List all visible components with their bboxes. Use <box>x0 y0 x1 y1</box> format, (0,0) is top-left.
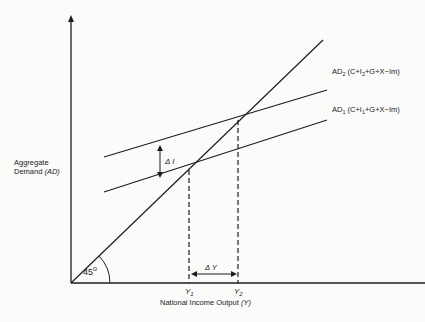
delta-i-arrow-top-icon <box>157 145 163 151</box>
diagram-canvas: 45o AD2(C+I2+G+X−Im) AD1(C+I1+G+X−Im) Δ … <box>0 0 425 322</box>
angle-label: 45o <box>83 265 97 277</box>
ad1-line <box>104 120 327 192</box>
y-axis-label-line2: Demand (AD) <box>14 167 60 176</box>
y1-label: Y1 <box>185 287 194 297</box>
delta-y-arrow-left-icon <box>191 271 197 277</box>
angle-arc <box>99 256 110 283</box>
delta-i-label: Δ I <box>164 157 175 166</box>
y2-label: Y2 <box>234 287 243 297</box>
y-axis-label-line1: Aggregate <box>14 158 49 167</box>
x-axis-label: National Income Output (Y) <box>160 298 251 307</box>
ad2-label: AD2(C+I2+G+X−Im) <box>332 67 400 77</box>
y-axis-arrow-icon <box>68 15 74 22</box>
ad1-label: AD1(C+I1+G+X−Im) <box>332 105 400 115</box>
delta-y-label: Δ Y <box>204 263 218 272</box>
ad2-line <box>104 90 327 157</box>
delta-y-arrow-right-icon <box>231 271 237 277</box>
